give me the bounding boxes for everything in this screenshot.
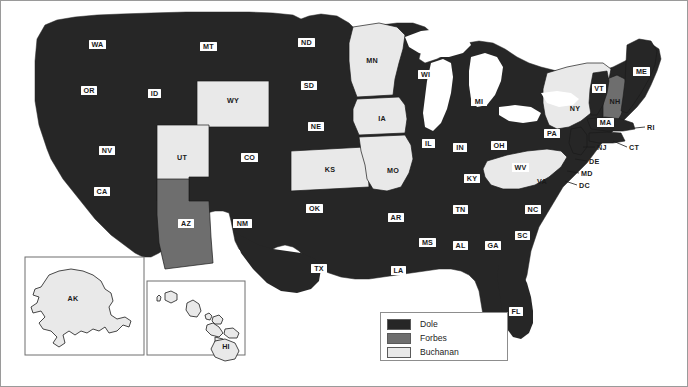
label-az: AZ — [178, 219, 194, 228]
label-co: CO — [241, 153, 258, 162]
label-mt: MT — [200, 42, 217, 51]
label-nm: NM — [233, 219, 252, 228]
label-fl-text: FL — [511, 307, 521, 316]
label-ia-text: IA — [378, 114, 386, 123]
label-wv: WV — [512, 163, 529, 172]
label-vt: VT — [592, 84, 606, 93]
map-svg: WA OR ID MT NV CA — [1, 1, 688, 387]
label-wa-text: WA — [92, 40, 104, 49]
label-in: IN — [453, 143, 467, 152]
label-or: OR — [81, 86, 97, 95]
label-ny-text: NY — [570, 104, 580, 113]
label-ne-text: NE — [311, 122, 321, 131]
label-ma-text: MA — [600, 118, 612, 127]
label-mt-text: MT — [203, 42, 214, 51]
map-frame: WA OR ID MT NV CA — [0, 0, 688, 387]
label-tx-text: TX — [314, 264, 324, 273]
label-nc-text: NC — [528, 205, 539, 214]
legend-label-dole: Dole — [420, 319, 438, 330]
label-tn-text: TN — [456, 205, 466, 214]
label-id-text: ID — [151, 89, 159, 98]
legend-swatch-forbes — [387, 333, 411, 344]
label-ar: AR — [388, 213, 404, 222]
label-mi-text: MI — [475, 97, 483, 106]
label-wy-text: WY — [227, 96, 239, 105]
label-ri-text: RI — [647, 123, 655, 132]
label-id: ID — [148, 89, 161, 98]
label-ga-text: GA — [487, 241, 498, 250]
label-nc: NC — [525, 205, 541, 214]
map-legend: Dole Forbes Buchanan — [380, 312, 508, 361]
hawaii-inset: HI — [147, 281, 245, 361]
label-sd-text: SD — [304, 81, 314, 90]
label-nm-text: NM — [237, 219, 249, 228]
label-az-text: AZ — [181, 219, 191, 228]
legend-swatch-buchanan — [387, 347, 411, 358]
label-sd: SD — [301, 81, 317, 90]
legend-item-buchanan: Buchanan — [387, 346, 501, 359]
label-ak-text: AK — [68, 294, 79, 303]
label-al-text: AL — [456, 241, 466, 250]
label-me-text: ME — [636, 67, 647, 76]
label-or-text: OR — [83, 86, 95, 95]
label-wi: WI — [418, 70, 433, 79]
label-ri: RI — [635, 123, 655, 132]
label-ky-text: KY — [467, 174, 477, 183]
label-wv-text: WV — [515, 163, 527, 172]
label-dc: DC — [565, 181, 590, 190]
legend-item-dole: Dole — [387, 318, 501, 331]
label-nd: ND — [298, 38, 315, 47]
legend-label-buchanan: Buchanan — [420, 347, 459, 358]
label-de-text: DE — [589, 157, 599, 166]
us-choropleth-map: WA OR ID MT NV CA — [1, 1, 688, 387]
label-va-text: VA — [537, 177, 547, 186]
label-nd-text: ND — [301, 38, 312, 47]
label-co-text: CO — [244, 153, 255, 162]
label-ne: NE — [308, 122, 324, 131]
label-sc: SC — [515, 231, 530, 240]
label-dc-text: DC — [579, 181, 590, 190]
label-mn-text: MN — [366, 56, 378, 65]
label-pa-text: PA — [547, 129, 557, 138]
legend-label-forbes: Forbes — [420, 333, 447, 344]
label-sc-text: SC — [517, 231, 527, 240]
label-oh-text: OH — [493, 141, 504, 150]
label-nh-text: NH — [610, 97, 621, 106]
label-ct: CT — [613, 141, 639, 152]
label-tx: TX — [311, 264, 327, 273]
label-ca: CA — [94, 187, 110, 196]
label-nv-text: NV — [102, 146, 112, 155]
label-mo-text: MO — [387, 166, 399, 175]
label-ma: MA — [597, 118, 614, 127]
label-wa: WA — [89, 40, 106, 49]
label-wi-text: WI — [421, 70, 430, 79]
label-fl: FL — [509, 307, 523, 316]
alaska-inset: AK — [25, 257, 144, 355]
label-vt-text: VT — [594, 84, 604, 93]
label-ct-text: CT — [629, 143, 639, 152]
label-ok-text: OK — [309, 204, 321, 213]
legend-swatch-dole — [387, 319, 411, 330]
label-la-text: LA — [394, 266, 404, 275]
label-pa: PA — [544, 129, 560, 138]
legend-item-forbes: Forbes — [387, 332, 501, 345]
label-me: ME — [633, 67, 650, 76]
label-mi: MI — [471, 97, 487, 106]
label-ar-text: AR — [391, 213, 402, 222]
label-hi-text: HI — [222, 342, 230, 351]
label-in-text: IN — [456, 143, 464, 152]
label-ut-text: UT — [177, 153, 187, 162]
label-ms-text: MS — [422, 238, 433, 247]
label-nj-text: NJ — [597, 143, 607, 152]
label-al: AL — [453, 241, 468, 250]
state-ct-ri-shape — [589, 132, 625, 143]
label-tn: TN — [453, 205, 468, 214]
label-ok: OK — [306, 204, 323, 213]
label-ks-text: KS — [325, 165, 335, 174]
label-ky: KY — [464, 174, 480, 183]
label-ga: GA — [485, 241, 501, 250]
label-oh: OH — [491, 141, 507, 150]
label-il-text: IL — [425, 139, 432, 148]
label-nv: NV — [99, 146, 115, 155]
label-il: IL — [422, 139, 435, 148]
